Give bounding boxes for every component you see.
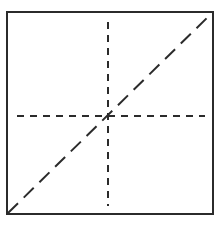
diagram-svg: [0, 0, 224, 227]
diagonal-dashed-line: [8, 13, 212, 213]
diagram-canvas: [0, 0, 224, 227]
